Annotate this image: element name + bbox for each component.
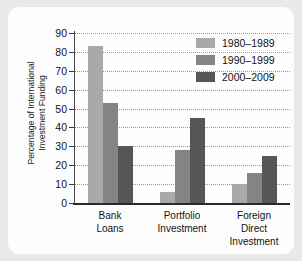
gridline-60 <box>74 90 290 91</box>
y-tick-label-70: 70 <box>55 65 67 77</box>
bar-portfolio-investment-2000–2009 <box>190 118 205 203</box>
bar-foreign-direct-investment-2000–2009 <box>262 156 277 203</box>
legend: 1980–19891990–19992000–2009 <box>196 35 292 86</box>
y-tick-label-30: 30 <box>55 140 67 152</box>
y-tick-label-60: 60 <box>55 84 67 96</box>
y-tick-label-90: 90 <box>55 27 67 39</box>
gridline-90 <box>74 33 290 34</box>
legend-item-1980–1989: 1980–1989 <box>196 35 292 50</box>
legend-swatch-2000–2009 <box>196 72 215 82</box>
y-tick-label-80: 80 <box>55 46 67 58</box>
x-axis-label-foreign-direct-investment: Foreign Direct Investment <box>230 209 279 248</box>
legend-swatch-1990–1999 <box>196 55 215 65</box>
legend-item-2000–2009: 2000–2009 <box>196 69 292 84</box>
bar-foreign-direct-investment-1980–1989 <box>232 184 247 203</box>
x-axis-label-portfolio-investment: Portfolio Investment <box>158 209 207 235</box>
legend-swatch-1980–1989 <box>196 38 215 48</box>
legend-item-1990–1999: 1990–1999 <box>196 52 292 67</box>
bar-foreign-direct-investment-1990–1999 <box>247 173 262 203</box>
legend-label-1980–1989: 1980–1989 <box>222 37 275 49</box>
bar-bank-loans-1990–1999 <box>103 103 118 203</box>
bar-portfolio-investment-1990–1999 <box>175 150 190 203</box>
figure-root: Percentage of International Investment F… <box>0 0 302 261</box>
y-tick-label-10: 10 <box>55 178 67 190</box>
x-axis-label-bank-loans: Bank Loans <box>96 209 123 235</box>
y-tick-label-40: 40 <box>55 121 67 133</box>
y-axis-title-line-1: Percentage of International <box>26 61 36 164</box>
y-tick-label-50: 50 <box>55 103 67 115</box>
bar-portfolio-investment-1980–1989 <box>160 192 175 203</box>
legend-label-2000–2009: 2000–2009 <box>222 71 275 83</box>
y-axis-title: Percentage of International Investment F… <box>21 25 51 200</box>
y-axis-line <box>74 31 75 203</box>
bar-bank-loans-2000–2009 <box>118 146 133 203</box>
bar-bank-loans-1980–1989 <box>88 46 103 203</box>
x-axis-line <box>73 203 290 205</box>
y-tick-label-0: 0 <box>61 197 67 209</box>
y-tick-label-20: 20 <box>55 159 67 171</box>
chart-card: Percentage of International Investment F… <box>8 7 294 254</box>
y-axis-title-line-2: Investment Funding <box>36 75 46 150</box>
legend-label-1990–1999: 1990–1999 <box>222 54 275 66</box>
y-axis-title-text: Percentage of International Investment F… <box>26 61 47 164</box>
